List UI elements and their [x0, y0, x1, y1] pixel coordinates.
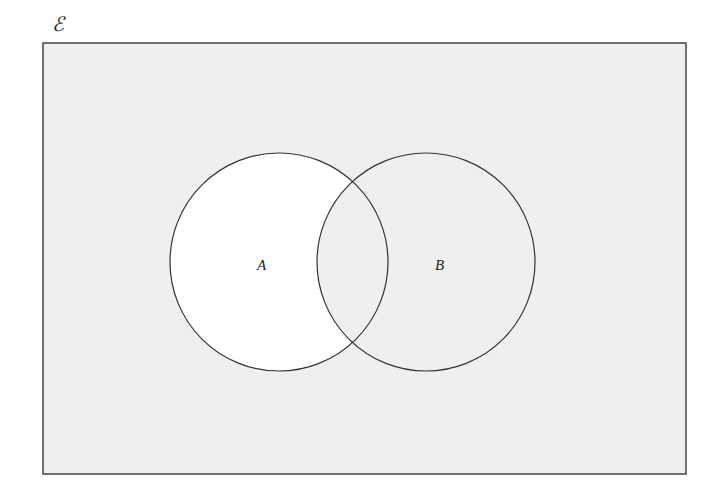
- set-a-label: A: [256, 257, 267, 273]
- venn-diagram: ℰ A B: [0, 0, 721, 497]
- set-b-label: B: [435, 257, 444, 273]
- region-a-only: [0, 0, 721, 497]
